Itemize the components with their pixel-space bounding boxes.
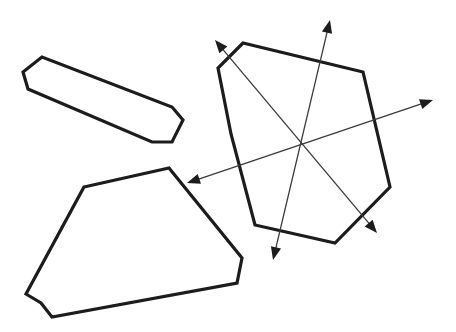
polygon-figure-canvas bbox=[0, 0, 456, 332]
figure-root bbox=[0, 0, 456, 332]
